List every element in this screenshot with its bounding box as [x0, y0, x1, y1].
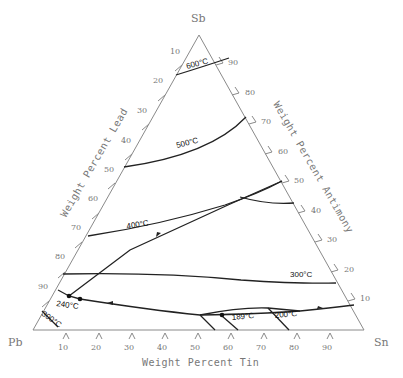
svg-text:30: 30: [137, 106, 147, 115]
svg-text:70: 70: [261, 117, 271, 126]
svg-text:10: 10: [360, 294, 370, 303]
svg-text:50: 50: [294, 176, 304, 185]
isotherm-400: 400°C: [88, 181, 282, 236]
svg-text:60: 60: [88, 194, 98, 203]
svg-text:50: 50: [190, 343, 200, 352]
svg-text:40: 40: [121, 136, 131, 145]
svg-text:189°C: 189°C: [231, 311, 254, 322]
right-tick-labels: 90 80 70 60 50 40 30 20 10: [228, 58, 370, 303]
svg-text:300°C: 300°C: [40, 309, 64, 329]
svg-text:90: 90: [38, 282, 48, 291]
corner-label-pb: Pb: [8, 336, 22, 349]
svg-text:30: 30: [327, 235, 337, 244]
svg-text:80: 80: [55, 252, 65, 261]
ternary-point-189: [220, 313, 225, 318]
tin-rich-region: 189°C 200°C: [200, 308, 300, 330]
svg-text:30: 30: [124, 343, 134, 352]
svg-text:300°C: 300°C: [290, 270, 313, 279]
axis-title-tin: Weight Percent Tin: [142, 357, 259, 368]
svg-text:80: 80: [289, 343, 299, 352]
svg-text:20: 20: [344, 265, 354, 274]
svg-text:60: 60: [223, 343, 233, 352]
svg-text:40: 40: [311, 206, 321, 215]
svg-text:40: 40: [157, 343, 167, 352]
svg-text:400°C: 400°C: [126, 218, 150, 231]
ternary-point-240: [67, 294, 72, 299]
ternary-point: [78, 297, 83, 302]
svg-text:70: 70: [256, 343, 266, 352]
svg-text:10: 10: [170, 47, 180, 56]
left-ticks: [42, 65, 182, 307]
svg-text:90: 90: [228, 58, 238, 67]
corner-label-sb: Sb: [191, 12, 206, 25]
isotherm-300-corner: 300°C: [40, 309, 64, 329]
svg-text:240°C: 240°C: [56, 299, 80, 311]
right-ticks: [216, 57, 355, 301]
bottom-ticks: [63, 333, 333, 339]
bottom-tick-labels: 10 20 30 40 50 60 70 80 90: [58, 343, 332, 352]
eutectic-valley-pb-sb: [69, 181, 282, 296]
eutectic-valley-main: 240°C: [56, 290, 354, 315]
svg-text:90: 90: [322, 343, 332, 352]
isotherm-300: 300°C: [63, 270, 336, 283]
svg-text:80: 80: [245, 88, 255, 97]
svg-text:10: 10: [58, 343, 68, 352]
isotherm-500: 500°C: [124, 117, 246, 167]
corner-label-sn: Sn: [374, 336, 389, 349]
svg-text:70: 70: [71, 223, 81, 232]
left-tick-labels: 10 20 30 40 50 60 70 80 90: [38, 47, 180, 291]
svg-text:200°C: 200°C: [274, 309, 297, 320]
svg-text:50: 50: [104, 165, 114, 174]
ternary-diagram: 10 20 30 40 50 60 70 80 90 10 20 30 40 5…: [0, 0, 403, 378]
svg-text:500°C: 500°C: [175, 136, 199, 150]
svg-text:60: 60: [278, 147, 288, 156]
svg-text:20: 20: [153, 76, 163, 85]
isotherm-400-branch: [240, 197, 294, 203]
svg-text:20: 20: [91, 343, 101, 352]
